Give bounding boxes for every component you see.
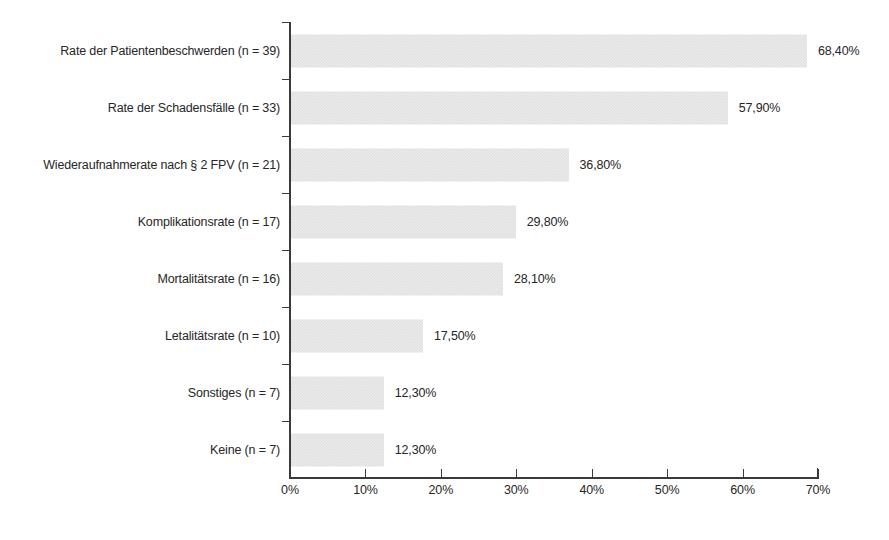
bar-row: Rate der Schadensfälle (n = 33)57,90% [0,79,889,136]
bar-value-label: 12,30% [395,386,437,400]
bar-row: Wiederaufnahmerate nach § 2 FPV (n = 21)… [0,136,889,193]
bar [291,433,384,466]
bar-row: Komplikationsrate (n = 17)29,80% [0,193,889,250]
x-axis-tick-label: 50% [655,483,680,497]
category-label: Rate der Patientenbeschwerden (n = 39) [60,44,280,58]
bar [291,148,569,181]
bar-value-label: 57,90% [739,101,781,115]
category-label: Letalitätsrate (n = 10) [165,329,280,343]
bar-row: Sonstiges (n = 7)12,30% [0,364,889,421]
bar [291,262,503,295]
bar-row: Letalitätsrate (n = 10)17,50% [0,307,889,364]
x-axis-tick-label: 30% [504,483,529,497]
x-axis-tick-label: 70% [806,483,831,497]
category-label: Sonstiges (n = 7) [188,386,280,400]
bar [291,205,516,238]
bar-value-label: 29,80% [527,215,569,229]
bar-row: Rate der Patientenbeschwerden (n = 39)68… [0,22,889,79]
bar [291,91,728,124]
x-axis-tick-label: 60% [730,483,755,497]
category-label: Rate der Schadensfälle (n = 33) [108,101,280,115]
x-axis-tick-label: 40% [579,483,604,497]
bar-row: Keine (n = 7)12,30% [0,421,889,478]
category-label: Mortalitätsrate (n = 16) [158,272,281,286]
x-axis-tick-label: 0% [281,483,299,497]
bar [291,34,807,67]
bar-value-label: 36,80% [580,158,622,172]
bar [291,319,423,352]
bar-row: Mortalitätsrate (n = 16)28,10% [0,250,889,307]
category-label: Keine (n = 7) [210,443,280,457]
bar-value-label: 28,10% [514,272,556,286]
x-axis-tick-label: 10% [353,483,378,497]
bar-chart: Rate der Patientenbeschwerden (n = 39)68… [0,0,889,540]
bar-value-label: 17,50% [434,329,476,343]
bar [291,376,384,409]
bar-value-label: 12,30% [395,443,437,457]
bar-value-label: 68,40% [818,44,860,58]
x-axis-tick-label: 20% [429,483,454,497]
category-label: Wiederaufnahmerate nach § 2 FPV (n = 21) [43,158,280,172]
category-label: Komplikationsrate (n = 17) [138,215,280,229]
